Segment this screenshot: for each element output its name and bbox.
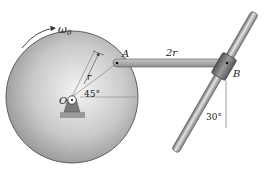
pin-A <box>116 62 119 65</box>
link-AB <box>113 59 231 67</box>
link-length-label: 2r <box>165 47 178 58</box>
pin-O-dot <box>71 99 73 101</box>
omega-label: ω0 <box>58 23 72 37</box>
pin-B <box>226 62 229 65</box>
point-O-label: O <box>59 95 67 106</box>
mechanism-diagram: ω0 A 2r B O r 45° 30° <box>0 0 271 174</box>
support-base <box>60 112 85 118</box>
inclined-rod <box>172 11 259 154</box>
rod-angle-label: 30° <box>206 112 222 122</box>
disk-angle-label: 45° <box>84 89 100 99</box>
point-B-label: B <box>232 68 240 79</box>
radius-label: r <box>87 72 92 82</box>
point-A-label: A <box>121 48 129 59</box>
